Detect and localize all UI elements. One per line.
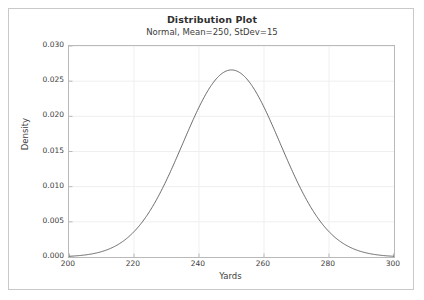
- x-tick-label: 200: [48, 260, 88, 268]
- y-tick-label: 0.025: [24, 76, 64, 84]
- x-axis-title: Yards: [68, 271, 393, 281]
- chart-title: Distribution Plot: [9, 13, 415, 26]
- y-tick-label: 0.015: [24, 147, 64, 155]
- y-axis-title: Density: [20, 104, 30, 164]
- y-tick-label: 0.005: [24, 217, 64, 225]
- x-tick-label: 280: [308, 260, 348, 268]
- y-tick-label: 0.010: [24, 182, 64, 190]
- y-tick-label: 0.030: [24, 41, 64, 49]
- title-block: Distribution Plot Normal, Mean=250, StDe…: [9, 13, 415, 38]
- distribution-curve-svg: [69, 46, 394, 257]
- chart-subtitle: Normal, Mean=250, StDev=15: [9, 26, 415, 38]
- plot-area: [68, 45, 395, 258]
- grid-lines: [69, 46, 394, 257]
- chart-figure: Distribution Plot Normal, Mean=250, StDe…: [8, 8, 414, 290]
- y-tick-label: 0.000: [24, 252, 64, 260]
- x-tick-label: 300: [373, 260, 413, 268]
- y-tick-label: 0.020: [24, 111, 64, 119]
- normal-density-curve: [69, 70, 394, 256]
- x-tick-label: 240: [178, 260, 218, 268]
- x-tick-label: 220: [113, 260, 153, 268]
- x-tick-label: 260: [243, 260, 283, 268]
